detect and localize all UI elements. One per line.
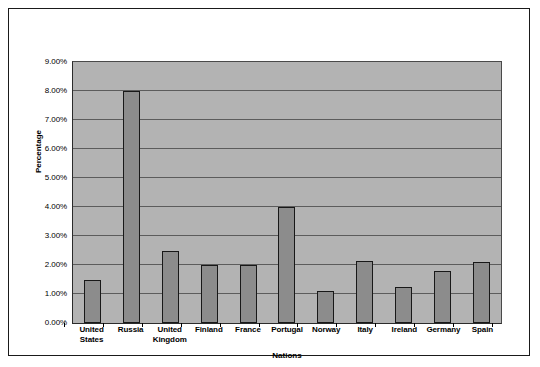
x-tick-mark [297, 323, 298, 327]
x-tick-label: United Kingdom [150, 325, 189, 345]
y-tick-label: 3.00% [21, 231, 67, 240]
bar[interactable] [84, 280, 101, 324]
bar[interactable] [434, 271, 451, 323]
bar-slot [73, 62, 112, 323]
x-tick-mark [414, 323, 415, 327]
x-tick-label: France [228, 325, 267, 345]
bar[interactable] [473, 262, 490, 323]
bar-slot [384, 62, 423, 323]
x-axis-title: Nations [72, 351, 502, 360]
bar[interactable] [201, 265, 218, 323]
x-tick-mark [64, 323, 65, 327]
x-tick-label: Germany [424, 325, 463, 345]
bar-slot [462, 62, 501, 323]
bar[interactable] [278, 207, 295, 323]
bar[interactable] [395, 287, 412, 323]
y-tick-label: 4.00% [21, 202, 67, 211]
x-tick-label: United States [72, 325, 111, 345]
x-tick-label: Norway [307, 325, 346, 345]
figure-frame: Percentage 0.00%1.00%2.00%3.00%4.00%5.00… [8, 8, 530, 356]
bar[interactable] [240, 265, 257, 323]
y-axis-ticks: 0.00%1.00%2.00%3.00%4.00%5.00%6.00%7.00%… [17, 61, 67, 323]
x-tick-mark [453, 323, 454, 327]
x-tick-label: Russia [111, 325, 150, 345]
plot-area [72, 61, 502, 324]
bar[interactable] [162, 251, 179, 324]
bar-slot [112, 62, 151, 323]
y-tick-label: 8.00% [21, 86, 67, 95]
bar-slot [151, 62, 190, 323]
x-tick-mark [220, 323, 221, 327]
y-tick-label: 7.00% [21, 115, 67, 124]
bar-series [73, 62, 501, 323]
x-tick-label: Portugal [267, 325, 306, 345]
x-tick-mark [492, 323, 493, 327]
bar[interactable] [356, 261, 373, 323]
y-tick-label: 2.00% [21, 260, 67, 269]
x-tick-label: Spain [463, 325, 502, 345]
x-axis-labels: United StatesRussiaUnited KingdomFinland… [72, 325, 502, 345]
bar[interactable] [317, 291, 334, 323]
bar-slot [423, 62, 462, 323]
bar-slot [306, 62, 345, 323]
bar-slot [190, 62, 229, 323]
y-tick-label: 1.00% [21, 289, 67, 298]
x-tick-mark [375, 323, 376, 327]
y-tick-label: 9.00% [21, 57, 67, 66]
x-tick-mark [142, 323, 143, 327]
y-tick-label: 5.00% [21, 173, 67, 182]
bar-slot [345, 62, 384, 323]
bar-slot [268, 62, 307, 323]
x-tick-mark [181, 323, 182, 327]
bar[interactable] [123, 91, 140, 323]
x-tick-mark [103, 323, 104, 327]
x-tick-mark [336, 323, 337, 327]
x-tick-label: Ireland [385, 325, 424, 345]
chart-figure: Percentage 0.00%1.00%2.00%3.00%4.00%5.00… [0, 0, 540, 367]
bar-slot [229, 62, 268, 323]
x-tick-label: Italy [346, 325, 385, 345]
y-tick-label: 6.00% [21, 144, 67, 153]
x-tick-label: Finland [189, 325, 228, 345]
x-tick-mark [259, 323, 260, 327]
y-tick-label: 0.00% [21, 318, 67, 327]
